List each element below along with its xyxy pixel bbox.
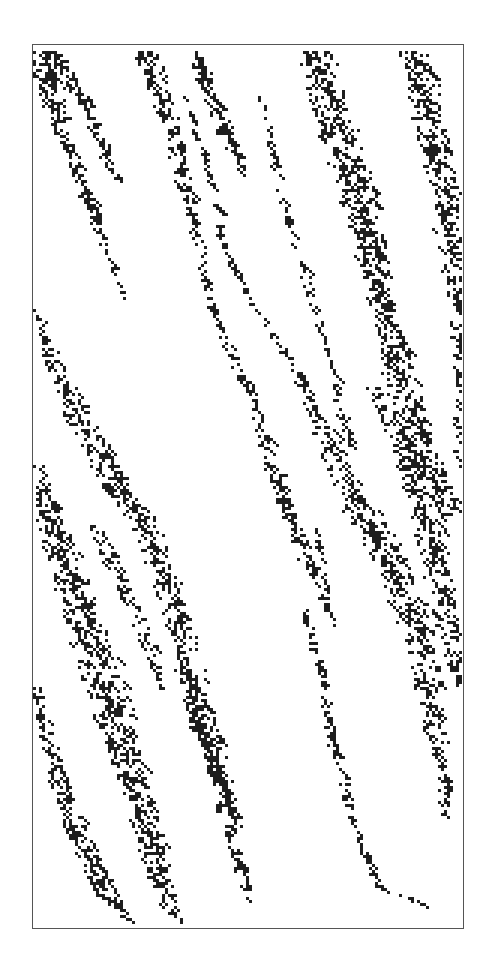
figure-frame <box>32 44 464 929</box>
cellular-automaton-pattern <box>33 45 463 928</box>
